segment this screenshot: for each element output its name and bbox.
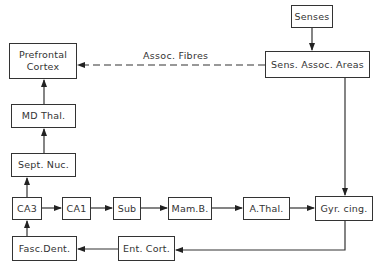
node-mam-b: Mam.B.: [168, 197, 212, 220]
node-senses: Senses: [291, 5, 333, 28]
node-ent-cort: Ent. Cort.: [118, 236, 175, 261]
node-gyr-cing: Gyr. cing.: [315, 196, 373, 221]
assoc-fibres-label: Assoc. Fibres: [143, 50, 208, 61]
node-ca1: CA1: [62, 197, 91, 220]
node-sens-assoc-areas: Sens. Assoc. Areas: [265, 51, 370, 78]
node-sept-nuc: Sept. Nuc.: [11, 153, 76, 177]
connector-layer: [0, 0, 381, 268]
node-fasc-dent-label: Fasc.Dent.: [19, 243, 71, 255]
node-sub: Sub: [113, 197, 141, 220]
node-ca3-label: CA3: [17, 203, 37, 215]
node-senses-label: Senses: [295, 11, 330, 23]
node-md-thal: MD Thal.: [11, 104, 76, 128]
node-prefrontal-cortex-label: Prefrontal Cortex: [19, 49, 67, 73]
node-ca3: CA3: [12, 197, 42, 220]
node-mam-b-label: Mam.B.: [171, 203, 208, 215]
node-md-thal-label: MD Thal.: [22, 110, 65, 122]
node-gyr-cing-label: Gyr. cing.: [321, 203, 368, 215]
node-a-thal: A.Thal.: [243, 197, 290, 220]
node-a-thal-label: A.Thal.: [249, 203, 283, 215]
node-fasc-dent: Fasc.Dent.: [12, 236, 77, 261]
node-sens-assoc-areas-label: Sens. Assoc. Areas: [271, 59, 364, 71]
node-sept-nuc-label: Sept. Nuc.: [18, 159, 69, 171]
node-ca1-label: CA1: [67, 203, 87, 215]
arrow-gyr-cing-to-ent-cort: [176, 221, 345, 250]
node-ent-cort-label: Ent. Cort.: [123, 243, 170, 255]
node-prefrontal-cortex: Prefrontal Cortex: [9, 43, 77, 79]
node-sub-label: Sub: [118, 203, 137, 215]
